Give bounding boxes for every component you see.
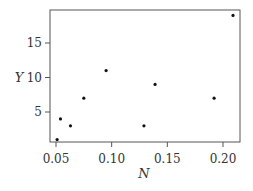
- y-axis-label: Y: [15, 70, 25, 85]
- scatter-chart: 0.050.100.150.20 51015 N Y: [0, 0, 253, 191]
- data-point: [153, 83, 156, 86]
- data-point: [56, 138, 59, 141]
- plot-area: 0.050.100.150.20 51015 N Y: [0, 0, 253, 191]
- data-point: [59, 117, 62, 120]
- x-tick-label: 0.10: [98, 152, 125, 166]
- data-points: [56, 14, 235, 141]
- x-tick-label: 0.05: [43, 152, 70, 166]
- x-tick-label: 0.15: [154, 152, 181, 166]
- data-point: [142, 124, 145, 127]
- data-point: [82, 97, 85, 100]
- y-tick-label: 5: [34, 105, 42, 119]
- y-axis: 51015: [27, 36, 50, 119]
- y-tick-label: 15: [27, 36, 42, 50]
- data-point: [69, 124, 72, 127]
- x-axis-label: N: [137, 166, 150, 181]
- x-axis: 0.050.100.150.20: [43, 142, 237, 166]
- plot-frame: [50, 10, 240, 142]
- data-point: [212, 97, 215, 100]
- y-tick-label: 10: [27, 71, 42, 85]
- data-point: [231, 14, 234, 17]
- x-tick-label: 0.20: [210, 152, 237, 166]
- data-point: [105, 69, 108, 72]
